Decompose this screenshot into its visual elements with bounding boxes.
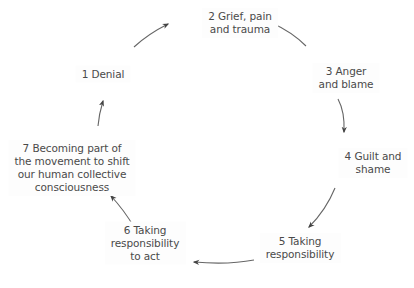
arrow-4-to-5 bbox=[309, 188, 335, 227]
node-responsibility-act-line-3: to act bbox=[111, 250, 180, 263]
node-guilt-line-2: shame bbox=[345, 163, 402, 176]
arrow-5-to-6 bbox=[194, 260, 254, 263]
node-taking-responsibility-to-act: 6 Taking responsibility to act bbox=[105, 222, 186, 265]
node-movement-line-4: consciousness bbox=[14, 181, 129, 194]
arrow-1-to-2 bbox=[134, 24, 168, 47]
node-denial: 1 Denial bbox=[76, 66, 131, 83]
node-movement-line-2: the movement to shift bbox=[14, 155, 129, 168]
node-anger-line-2: and blame bbox=[319, 78, 374, 91]
arrow-7-to-1 bbox=[98, 101, 103, 126]
node-taking-responsibility: 5 Taking responsibility bbox=[260, 233, 341, 263]
node-becoming-part-of-movement: 7 Becoming part of the movement to shift… bbox=[8, 140, 135, 196]
node-responsibility-act-line-1: 6 Taking bbox=[111, 224, 180, 237]
node-taking-responsibility-line-2: responsibility bbox=[266, 248, 335, 261]
node-grief-line-1: 2 Grief, pain bbox=[208, 10, 272, 23]
node-denial-line-1: 1 Denial bbox=[82, 68, 125, 81]
node-grief-line-2: and trauma bbox=[208, 23, 272, 36]
node-movement-line-1: 7 Becoming part of bbox=[14, 142, 129, 155]
node-anger-line-1: 3 Anger bbox=[319, 65, 374, 78]
node-taking-responsibility-line-1: 5 Taking bbox=[266, 235, 335, 248]
node-anger: 3 Anger and blame bbox=[313, 63, 380, 93]
node-responsibility-act-line-2: responsibility bbox=[111, 237, 180, 250]
node-guilt-line-1: 4 Guilt and bbox=[345, 150, 402, 163]
arrow-3-to-4 bbox=[338, 99, 344, 132]
node-guilt: 4 Guilt and shame bbox=[339, 148, 408, 178]
cycle-diagram: 1 Denial 2 Grief, pain and trauma 3 Ange… bbox=[0, 0, 414, 288]
node-grief: 2 Grief, pain and trauma bbox=[202, 8, 278, 38]
node-movement-line-3: our human collective bbox=[14, 168, 129, 181]
